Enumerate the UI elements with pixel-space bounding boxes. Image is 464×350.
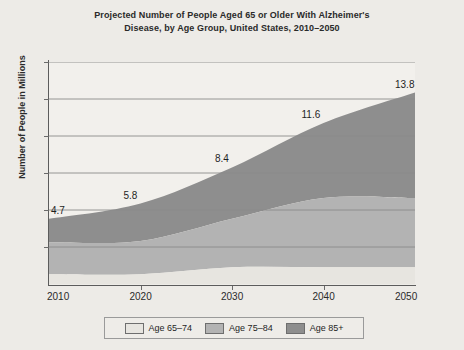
x-axis-tick xyxy=(232,286,233,290)
data-label: 4.7 xyxy=(51,205,65,216)
legend-swatch-icon xyxy=(205,323,224,334)
y-axis-tick xyxy=(44,173,49,174)
y-axis-tick xyxy=(44,62,49,63)
y-axis-label: Number of People in Millions xyxy=(17,47,27,187)
data-label: 8.4 xyxy=(215,153,229,164)
data-label: 5.8 xyxy=(124,190,138,201)
x-axis-tick-label: 2050 xyxy=(395,291,417,302)
legend-item[interactable]: Age 75–84 xyxy=(205,323,273,334)
chart-title-line-2: Disease, by Age Group, United States, 20… xyxy=(0,22,464,35)
data-label: 11.6 xyxy=(302,109,321,120)
x-axis-tick-label: 2040 xyxy=(313,291,335,302)
x-axis-tick-label: 2020 xyxy=(130,291,152,302)
y-axis-tick xyxy=(44,136,49,137)
legend-label: Age 75–84 xyxy=(229,323,273,333)
x-axis-tick xyxy=(324,286,325,290)
x-axis-tick-label: 2010 xyxy=(47,291,69,302)
y-axis-tick xyxy=(44,247,49,248)
legend-swatch-icon xyxy=(286,323,305,334)
data-label: 13.8 xyxy=(395,79,414,90)
legend-item[interactable]: Age 65–74 xyxy=(125,323,193,334)
legend-swatch-icon xyxy=(125,323,144,334)
y-axis-tick xyxy=(44,99,49,100)
chart-legend: Age 65–74Age 75–84Age 85+ xyxy=(104,317,364,339)
chart-canvas: Projected Number of People Aged 65 or Ol… xyxy=(0,0,464,350)
x-axis-tick-label: 2030 xyxy=(221,291,243,302)
plot-area xyxy=(49,62,415,284)
y-axis-tick xyxy=(44,210,49,211)
chart-title: Projected Number of People Aged 65 or Ol… xyxy=(0,9,464,35)
chart-title-line-1: Projected Number of People Aged 65 or Ol… xyxy=(0,9,464,22)
legend-label: Age 65–74 xyxy=(149,323,193,333)
legend-item[interactable]: Age 85+ xyxy=(286,323,344,334)
legend-label: Age 85+ xyxy=(310,323,344,333)
x-axis-tick xyxy=(141,286,142,290)
stacked-area-plot xyxy=(49,62,415,284)
